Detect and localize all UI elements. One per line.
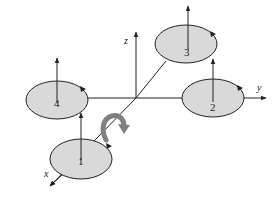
rotor-1-label: 1: [78, 155, 84, 167]
arm-1-3: [136, 61, 166, 98]
rotor-2: 2: [182, 59, 244, 117]
y-axis-label: y: [256, 82, 262, 93]
rotor-3: 3: [155, 6, 217, 63]
rotor-3-label: 3: [184, 46, 190, 58]
x-axis-tip: [50, 175, 62, 186]
rotation-direction-icon: [106, 143, 112, 149]
z-axis-label: z: [123, 35, 128, 46]
rotor-2-label: 2: [210, 101, 216, 113]
quadrotor-diagram: z 3 y 2 4 1 x: [0, 0, 280, 198]
x-axis-label: x: [43, 168, 49, 179]
rotor-4: 4: [26, 58, 88, 119]
rotor-4-label: 4: [54, 97, 60, 109]
